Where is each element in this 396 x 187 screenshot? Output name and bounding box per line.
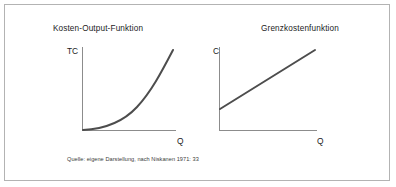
source-caption: Quelle: eigene Darstellung, nach Niskane… (67, 156, 199, 162)
panel-kosten-output-funktion: Kosten-Output-Funktion (5, 5, 203, 180)
marginal-cost-line (220, 50, 315, 109)
figure-frame: Kosten-Output-Funktion Grenzkostenfunkti… (4, 4, 390, 181)
figure-root: Kosten-Output-Funktion Grenzkostenfunkti… (0, 0, 396, 187)
y-axis-label-right: C (213, 46, 219, 56)
plot-right (203, 5, 396, 182)
x-axis-label-left: Q (177, 136, 184, 146)
panel-grenzkostenfunktion: Grenzkostenfunktion (203, 5, 396, 180)
x-axis-label-right: Q (317, 136, 324, 146)
y-axis-label-left: TC (67, 46, 78, 56)
total-cost-curve (83, 50, 173, 130)
